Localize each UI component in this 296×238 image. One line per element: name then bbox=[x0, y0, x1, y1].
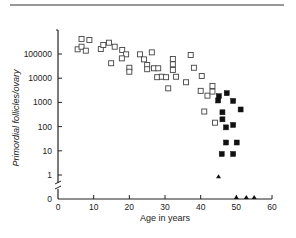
y-tick-label: 1000 bbox=[33, 97, 52, 107]
open-square-point bbox=[112, 44, 117, 49]
open-square-point bbox=[170, 62, 175, 67]
filled-square-point bbox=[238, 107, 243, 112]
x-tick-label: 50 bbox=[232, 202, 242, 212]
x-axis-label: Age in years bbox=[140, 213, 191, 223]
open-square-point bbox=[141, 57, 146, 62]
open-square-point bbox=[149, 50, 154, 55]
x-tick-label: 40 bbox=[196, 202, 206, 212]
open-square-point bbox=[164, 75, 169, 80]
open-square-point bbox=[188, 52, 193, 57]
open-square-point bbox=[170, 57, 175, 62]
open-square-point bbox=[199, 74, 204, 79]
open-square-point bbox=[210, 83, 215, 88]
open-square-point bbox=[107, 40, 112, 45]
filled-square-point bbox=[231, 151, 236, 156]
open-square-point bbox=[145, 67, 150, 72]
open-square-point bbox=[191, 65, 196, 70]
y-tick-label: 0 bbox=[47, 194, 52, 204]
open-square-point bbox=[138, 52, 143, 57]
y-tick-label: 10 bbox=[43, 146, 53, 156]
filled-square-point bbox=[216, 98, 221, 103]
filled-square-point bbox=[231, 98, 236, 103]
open-square-point bbox=[170, 67, 175, 72]
ticks: 01020304050600110100100010000100000 bbox=[24, 49, 277, 212]
triangle-point bbox=[244, 195, 249, 199]
open-square-point bbox=[109, 61, 114, 66]
y-tick-label: 10000 bbox=[28, 73, 52, 83]
x-tick-label: 60 bbox=[267, 202, 277, 212]
open-square-point bbox=[210, 89, 215, 94]
axis-break-mark bbox=[55, 186, 61, 189]
open-square-point bbox=[212, 120, 217, 125]
open-square-point bbox=[79, 36, 84, 41]
open-square-point bbox=[119, 56, 124, 61]
open-square-point bbox=[202, 109, 207, 114]
open-square-point bbox=[101, 43, 106, 48]
open-square-point bbox=[184, 80, 189, 85]
x-tick-label: 20 bbox=[125, 202, 135, 212]
filled-square-point bbox=[231, 122, 236, 127]
filled-square-point bbox=[220, 117, 225, 122]
x-tick-label: 30 bbox=[160, 202, 170, 212]
open-square-point bbox=[205, 93, 210, 98]
open-square-point bbox=[174, 74, 179, 79]
open-square-point bbox=[198, 88, 203, 93]
open-square-point bbox=[127, 69, 132, 74]
y-tick-label: 1 bbox=[47, 170, 52, 180]
data-marks bbox=[75, 36, 257, 199]
y-tick-label: 100000 bbox=[24, 49, 53, 59]
triangle-point bbox=[252, 195, 257, 199]
y-tick-label: 100 bbox=[38, 122, 52, 132]
filled-square-point bbox=[220, 110, 225, 115]
filled-square-point bbox=[224, 140, 229, 145]
open-square-point bbox=[83, 48, 88, 53]
filled-square-point bbox=[234, 140, 239, 145]
x-tick-label: 10 bbox=[89, 202, 99, 212]
y-axis-label: Primordial follicles/ovary bbox=[11, 69, 21, 167]
open-square-point bbox=[166, 86, 171, 91]
filled-square-point bbox=[224, 125, 229, 130]
open-square-point bbox=[156, 66, 161, 71]
triangle-point bbox=[216, 174, 221, 178]
axes bbox=[55, 30, 272, 199]
filled-square-point bbox=[219, 151, 224, 156]
open-square-point bbox=[87, 37, 92, 42]
chart: 01020304050600110100100010000100000 Age … bbox=[0, 0, 296, 238]
triangle-point bbox=[234, 195, 239, 199]
x-tick-label: 0 bbox=[56, 202, 61, 212]
filled-square-point bbox=[224, 91, 229, 96]
